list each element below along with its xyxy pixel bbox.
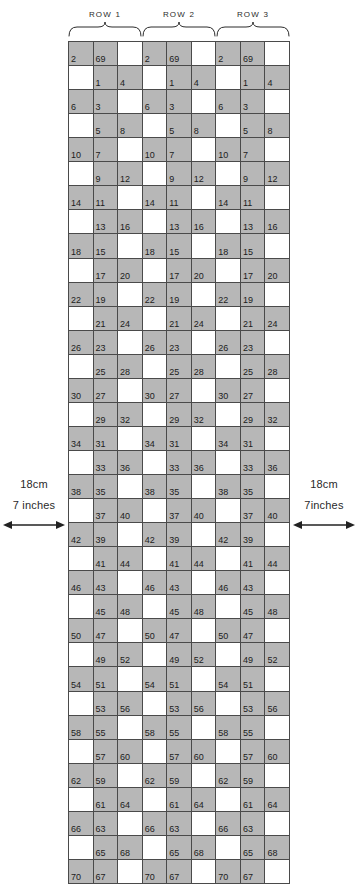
- grid-cell[interactable]: 17: [94, 259, 119, 283]
- grid-cell[interactable]: [265, 619, 290, 643]
- grid-cell[interactable]: 69: [241, 42, 266, 66]
- grid-cell[interactable]: 46: [143, 571, 168, 595]
- grid-cell[interactable]: 53: [94, 692, 119, 716]
- grid-cell[interactable]: 8: [192, 114, 217, 138]
- grid-cell[interactable]: 17: [241, 259, 266, 283]
- grid-cell[interactable]: 2: [143, 42, 168, 66]
- grid-cell[interactable]: [216, 643, 241, 667]
- grid-cell[interactable]: 39: [94, 523, 119, 547]
- grid-cell[interactable]: 45: [241, 595, 266, 619]
- grid-cell[interactable]: [118, 523, 143, 547]
- grid-cell[interactable]: 38: [143, 475, 168, 499]
- grid-cell[interactable]: [216, 692, 241, 716]
- grid-cell[interactable]: 44: [192, 547, 217, 571]
- grid-cell[interactable]: 61: [94, 788, 119, 812]
- grid-cell[interactable]: 45: [94, 595, 119, 619]
- grid-cell[interactable]: 13: [241, 210, 266, 234]
- grid-cell[interactable]: [118, 812, 143, 836]
- grid-cell[interactable]: [192, 331, 217, 355]
- grid-cell[interactable]: [265, 812, 290, 836]
- grid-cell[interactable]: 7: [94, 138, 119, 162]
- grid-cell[interactable]: 8: [118, 114, 143, 138]
- grid-cell[interactable]: 15: [94, 234, 119, 258]
- grid-cell[interactable]: [192, 283, 217, 307]
- grid-cell[interactable]: 35: [241, 475, 266, 499]
- grid-cell[interactable]: [216, 355, 241, 379]
- grid-cell[interactable]: [265, 427, 290, 451]
- grid-cell[interactable]: 47: [241, 619, 266, 643]
- grid-cell[interactable]: 58: [143, 716, 168, 740]
- grid-cell[interactable]: 11: [167, 186, 192, 210]
- grid-cell[interactable]: 61: [241, 788, 266, 812]
- grid-cell[interactable]: 52: [265, 643, 290, 667]
- grid-cell[interactable]: 54: [69, 667, 94, 691]
- grid-cell[interactable]: 64: [192, 788, 217, 812]
- grid-cell[interactable]: 47: [94, 619, 119, 643]
- grid-cell[interactable]: [118, 186, 143, 210]
- grid-cell[interactable]: 49: [167, 643, 192, 667]
- grid-cell[interactable]: 43: [167, 571, 192, 595]
- grid-cell[interactable]: [216, 66, 241, 90]
- grid-cell[interactable]: 46: [69, 571, 94, 595]
- grid-cell[interactable]: 20: [192, 259, 217, 283]
- grid-cell[interactable]: [216, 499, 241, 523]
- grid-cell[interactable]: [192, 90, 217, 114]
- grid-cell[interactable]: 26: [143, 331, 168, 355]
- grid-cell[interactable]: 22: [143, 283, 168, 307]
- grid-cell[interactable]: 7: [167, 138, 192, 162]
- grid-cell[interactable]: 33: [94, 451, 119, 475]
- grid-cell[interactable]: 3: [241, 90, 266, 114]
- grid-cell[interactable]: 65: [94, 836, 119, 860]
- grid-cell[interactable]: [192, 475, 217, 499]
- grid-cell[interactable]: 35: [167, 475, 192, 499]
- grid-cell[interactable]: [69, 451, 94, 475]
- grid-cell[interactable]: 40: [265, 499, 290, 523]
- grid-cell[interactable]: 12: [265, 162, 290, 186]
- grid-cell[interactable]: 62: [69, 764, 94, 788]
- grid-cell[interactable]: 67: [241, 860, 266, 884]
- grid-cell[interactable]: 53: [167, 692, 192, 716]
- grid-cell[interactable]: 10: [69, 138, 94, 162]
- grid-cell[interactable]: 50: [143, 619, 168, 643]
- grid-cell[interactable]: 40: [192, 499, 217, 523]
- grid-cell[interactable]: 18: [216, 234, 241, 258]
- grid-cell[interactable]: 59: [94, 764, 119, 788]
- grid-cell[interactable]: 32: [118, 403, 143, 427]
- grid-cell[interactable]: [216, 259, 241, 283]
- grid-cell[interactable]: 27: [94, 379, 119, 403]
- grid-cell[interactable]: 27: [167, 379, 192, 403]
- grid-cell[interactable]: 24: [118, 307, 143, 331]
- grid-cell[interactable]: 45: [167, 595, 192, 619]
- grid-cell[interactable]: [265, 42, 290, 66]
- grid-cell[interactable]: [143, 66, 168, 90]
- grid-cell[interactable]: 32: [192, 403, 217, 427]
- grid-cell[interactable]: [216, 547, 241, 571]
- grid-cell[interactable]: [118, 90, 143, 114]
- grid-cell[interactable]: 37: [167, 499, 192, 523]
- grid-cell[interactable]: [265, 379, 290, 403]
- grid-cell[interactable]: 19: [94, 283, 119, 307]
- grid-cell[interactable]: [118, 716, 143, 740]
- grid-cell[interactable]: 8: [265, 114, 290, 138]
- grid-cell[interactable]: [143, 643, 168, 667]
- grid-cell[interactable]: 37: [94, 499, 119, 523]
- grid-cell[interactable]: 54: [143, 667, 168, 691]
- grid-cell[interactable]: 63: [94, 812, 119, 836]
- grid-cell[interactable]: 33: [167, 451, 192, 475]
- grid-cell[interactable]: [192, 812, 217, 836]
- grid-cell[interactable]: 31: [94, 427, 119, 451]
- grid-cell[interactable]: 22: [69, 283, 94, 307]
- grid-cell[interactable]: [118, 764, 143, 788]
- grid-cell[interactable]: 55: [167, 716, 192, 740]
- grid-cell[interactable]: 42: [143, 523, 168, 547]
- grid-cell[interactable]: 68: [118, 836, 143, 860]
- grid-cell[interactable]: [143, 499, 168, 523]
- grid-cell[interactable]: [192, 379, 217, 403]
- grid-cell[interactable]: [265, 523, 290, 547]
- grid-cell[interactable]: [69, 788, 94, 812]
- grid-cell[interactable]: [265, 186, 290, 210]
- grid-cell[interactable]: 40: [118, 499, 143, 523]
- grid-cell[interactable]: 48: [192, 595, 217, 619]
- grid-cell[interactable]: 63: [167, 812, 192, 836]
- grid-cell[interactable]: 4: [118, 66, 143, 90]
